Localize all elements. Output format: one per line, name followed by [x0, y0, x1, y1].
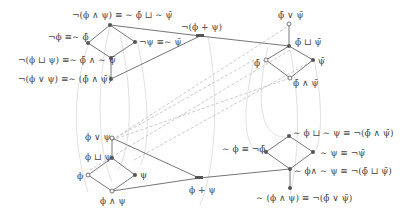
- label-tr-right: ψ̄: [318, 56, 325, 66]
- label-bl-bottom: ϕ ∧ ψ: [100, 196, 126, 206]
- label-br-left: ∼ ϕ ≡ ¬ϕ̄: [222, 144, 265, 154]
- label-bl-top: ϕ ⊔ ψ: [85, 152, 111, 162]
- label-br-below: ∼ (ϕ ∧ ψ) ≡ ¬(ϕ̄ ∨ ψ̄): [256, 193, 352, 203]
- label-tr-bottom: ϕ̄ ∧ ψ̄: [293, 78, 319, 88]
- label-bl-left: ϕ: [77, 171, 83, 181]
- label-br-right: ∼ ψ ≡ ¬ψ̄: [320, 148, 365, 158]
- label-tl-below: ¬(ϕ ∨ ψ) ≡∼ (ϕ̄ ∧ ψ̄): [18, 74, 111, 84]
- label-bl-above: ϕ ∨ ψ: [85, 132, 111, 142]
- dashed-connectors: [90, 25, 314, 170]
- hollow-nodes: [86, 22, 292, 193]
- label-tl-top: ¬(ϕ ∧ ψ) ≡ ∼ ϕ̄ ⊔ ∼ ψ̄: [72, 10, 173, 20]
- label-tr-above: ϕ̄ ∨ ψ̄: [278, 10, 304, 20]
- label-tl-bottom: ¬(ϕ ⊔ ψ) ≡∼ ϕ̄ ∧ ∼ ψ̄: [18, 55, 116, 65]
- label-br-top: ∼ ϕ ⊔ ∼ ψ ≡ ¬(ϕ̄ ∧ ψ̄): [293, 128, 394, 138]
- label-tr-top: ϕ̄ ⊔ ψ̄: [295, 37, 321, 47]
- label-tr-left: ϕ̄: [254, 58, 260, 68]
- label-br-bottom: ∼ ϕ∧ ∼ ψ ≡ ¬(ϕ̄ ⊔ ψ̄): [294, 166, 392, 176]
- label-tl-left: ¬ϕ ≡∼ ϕ̄: [48, 32, 89, 42]
- label-tl-right: ¬ψ ≡∼ ψ̄: [139, 37, 181, 47]
- lattice-edges: [88, 24, 313, 191]
- label-top-middle: ¬(ϕ + ψ): [181, 22, 222, 32]
- label-bottom-middle: ϕ + ψ: [189, 185, 215, 195]
- label-bl-right: ψ: [140, 170, 147, 180]
